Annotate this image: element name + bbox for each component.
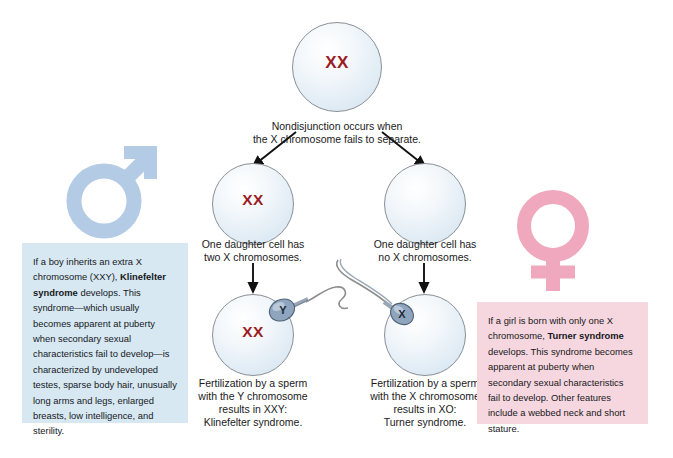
sperm-right: X	[322, 258, 422, 334]
parent-cell-chromosomes: XX	[292, 53, 382, 73]
klinefelter-text-part2: develops. This syndrome—which usually be…	[33, 287, 177, 437]
sperm-right-chromosome-label: X	[398, 308, 406, 320]
caption-zygote-left: Fertilization by a sperm with the Y chro…	[193, 377, 313, 429]
caption-zygote-right: Fertilization by a sperm with the X chro…	[365, 377, 485, 429]
daughter-cell-left-chromosomes: XX	[212, 191, 294, 209]
sperm-left-chromosome-label: Y	[279, 304, 287, 316]
caption-daughter-left: One daughter cell has two X chromosomes.	[193, 238, 313, 264]
sperm-right-tail2	[340, 259, 392, 304]
caption-nondisjunction: Nondisjunction occurs when the X chromos…	[237, 120, 437, 146]
diagram-canvas: XX Nondisjunction occurs when the X chro…	[0, 0, 673, 458]
turner-text-part2: develops. This syndrome becomes apparent…	[488, 346, 633, 434]
turner-info-box: If a girl is born with only one X chromo…	[477, 302, 648, 424]
female-symbol-circle	[524, 197, 582, 255]
female-symbol-icon	[509, 190, 597, 296]
male-symbol-icon	[66, 143, 160, 239]
klinefelter-info-box: If a boy inherits an extra X chromosome …	[22, 243, 188, 423]
turner-term: Turner syndrome	[547, 330, 623, 341]
daughter-cell-right	[384, 163, 466, 245]
